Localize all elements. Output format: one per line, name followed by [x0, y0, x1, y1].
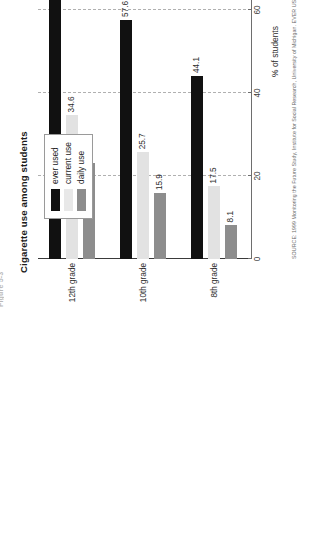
bar-group: 64.634.623.1 [38, 0, 109, 259]
category-label: 12th grade [68, 263, 77, 307]
category-label: 10th grade [139, 263, 148, 307]
chart-legend: ever used current use daily use [44, 134, 93, 219]
bar-current-use [137, 152, 149, 259]
legend-swatch-current-use [64, 189, 73, 211]
tick-label: 60 [253, 5, 262, 14]
bar-ever-used [120, 20, 132, 259]
legend-label-daily-use: daily use [76, 151, 86, 184]
tick-label: 0 [253, 257, 262, 262]
chart-title: Cigarette use among students [18, 131, 29, 273]
legend-label-current-use: current use [63, 142, 73, 184]
tick-mark [248, 175, 252, 176]
bar-value-label: 8.1 [225, 211, 237, 222]
bar-daily-use [154, 193, 166, 259]
bar-value-label: 34.6 [66, 96, 78, 112]
figure-canvas: Figure 5-3 Cigarette use among students … [0, 0, 311, 311]
tick-mark [248, 258, 252, 259]
tick-label: 20 [253, 171, 262, 180]
legend-item: ever used [50, 142, 60, 211]
bar-value-label: 25.7 [137, 133, 149, 149]
rotated-figure-frame: Figure 5-3 Cigarette use among students … [0, 0, 311, 311]
bar-value-label: 15.9 [154, 174, 166, 190]
bar-ever-used [191, 76, 203, 259]
legend-swatch-daily-use [77, 189, 86, 211]
tick-label: 40 [253, 88, 262, 97]
bar-value-label: 57.6 [120, 1, 132, 17]
legend-swatch-ever-used [51, 189, 60, 211]
source-note: SOURCE: 1999 Monitoring the Future Study… [291, 0, 297, 259]
value-axis-ticks: 020406080100 [253, 0, 269, 259]
tick-mark [248, 9, 252, 10]
figure-number: Figure 5-3 [0, 272, 4, 307]
bar-current-use [208, 186, 220, 259]
value-axis-line [251, 0, 252, 259]
legend-item: daily use [76, 142, 86, 211]
bar-group: 57.625.715.9 [109, 0, 180, 259]
bar-value-label: 17.5 [208, 167, 220, 183]
bar-value-label: 44.1 [191, 57, 203, 73]
bar-group: 44.117.58.1 [180, 0, 251, 259]
bar-ever-used [49, 0, 61, 259]
value-axis-title: % of students [270, 0, 280, 259]
legend-label-ever-used: ever used [50, 147, 60, 184]
category-label: 8th grade [210, 263, 219, 307]
legend-item: current use [63, 142, 73, 211]
plot-area: 64.634.623.112th grade57.625.715.910th g… [38, 0, 251, 259]
bar-daily-use [225, 225, 237, 259]
tick-mark [248, 92, 252, 93]
